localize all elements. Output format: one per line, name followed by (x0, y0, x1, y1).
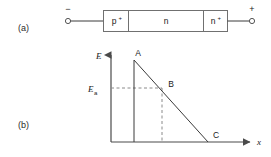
x-axis-label: x (256, 137, 261, 147)
left-terminal-node (65, 18, 70, 23)
region-label-n-plus-superscript: + (218, 15, 222, 21)
region-label-p-plus-base: p (112, 16, 117, 26)
point-label-a: A (135, 48, 141, 58)
series-field-profile (134, 60, 208, 142)
region-label-n-base: n (164, 16, 169, 26)
left-terminal-sign: − (65, 4, 70, 14)
field-chart: E x E a A B C (87, 48, 261, 147)
region-label-p-plus-superscript: + (119, 15, 123, 21)
right-terminal-sign: + (249, 4, 254, 14)
figure-container: (a) − p + n n (0, 0, 271, 157)
panel-label-a: (a) (18, 23, 29, 33)
right-terminal-node (249, 18, 254, 23)
y-axis-label: E (95, 51, 102, 61)
point-label-b: B (168, 79, 174, 89)
y-tick-label-ea-subscript: a (94, 90, 98, 96)
device-diagram: − p + n n + (65, 4, 254, 32)
y-tick-label-ea-base: E (87, 84, 94, 94)
point-label-c: C (213, 130, 219, 140)
region-label-n: n (164, 16, 169, 26)
region-label-n-plus-base: n (211, 16, 216, 26)
panel-label-b: (b) (18, 120, 29, 130)
y-tick-label-ea: E a (87, 84, 98, 96)
